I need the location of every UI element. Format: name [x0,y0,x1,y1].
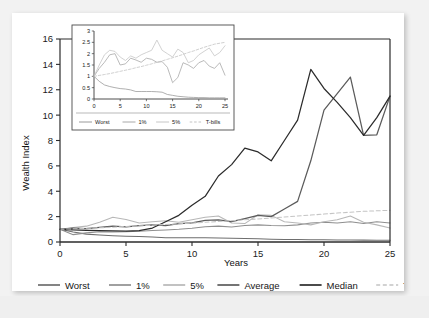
x-tick-label: 25 [385,248,396,259]
inset-legend-label-5-: 5% [172,119,180,125]
x-tick-label: 15 [253,248,264,259]
inset-y-tick-label: 1.5 [82,62,90,68]
y-tick-label: 6 [48,160,53,171]
inset-legend-label-t-bills: T-bills [206,119,221,125]
screenshot-root: 02468101214160510152025 Wealth Index Yea… [0,0,429,318]
y-tick-label: 12 [42,84,53,95]
y-tick-label: 16 [42,33,53,44]
inset-y-tick-label: 2.5 [82,39,90,45]
inset-x-tick-label: 5 [119,103,122,109]
inset-chart: 00.511.522.530510152025Worst1%5%T-bills [72,25,234,130]
inset-y-tick-label: 3 [87,28,90,34]
x-tick-label: 0 [57,248,62,259]
inset-x-tick-label: 25 [222,103,228,109]
y-tick-label: 4 [48,186,53,197]
legend-label-1-: 1% [136,280,150,291]
inset-legend-label-worst: Worst [95,119,110,125]
legend-label-t-bills: T-bills [403,280,404,291]
inset-legend-label-1-: 1% [139,119,147,125]
y-tick-label: 14 [42,59,53,70]
inset-x-tick-label: 20 [196,103,202,109]
legend-label-5-: 5% [190,280,204,291]
inset-y-tick-label: 0.5 [82,85,90,91]
y-tick-label: 8 [48,135,53,146]
inset-x-tick-label: 0 [92,103,95,109]
figure-card: 02468101214160510152025 Wealth Index Yea… [12,13,404,291]
y-tick-label: 0 [48,236,53,247]
legend-label-average: Average [244,280,279,291]
legend-label-worst: Worst [65,280,90,291]
x-tick-label: 10 [187,248,198,259]
inset-y-tick-label: 1 [87,73,90,79]
bottom-strip [0,296,429,318]
x-axis-title: Years [224,257,248,268]
y-tick-label: 2 [48,211,53,222]
inset-y-tick-label: 0 [87,96,90,102]
inset-x-tick-label: 15 [169,103,175,109]
wealth-index-chart: 02468101214160510152025 Wealth Index Yea… [12,13,404,291]
chart-svg: 02468101214160510152025 Wealth Index Yea… [12,13,404,291]
inset-y-tick-label: 2 [87,51,90,57]
x-tick-label: 5 [123,248,128,259]
inset-panel [72,25,234,130]
inset-x-tick-label: 10 [143,103,149,109]
legend-label-median: Median [327,280,358,291]
y-tick-label: 10 [42,110,53,121]
y-axis-title: Wealth Index [20,135,31,191]
x-tick-label: 20 [319,248,330,259]
